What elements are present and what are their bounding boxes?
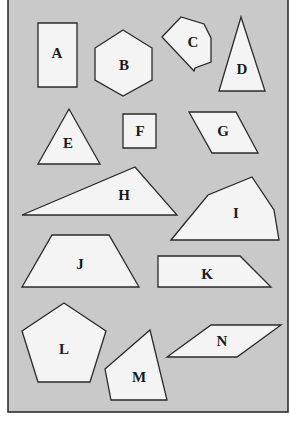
shape-label: H bbox=[118, 187, 130, 203]
shape-label: B bbox=[119, 57, 129, 73]
shape-label: L bbox=[59, 341, 69, 357]
shape-label: E bbox=[63, 135, 73, 151]
shape-label: M bbox=[132, 369, 146, 385]
shape-label: I bbox=[233, 205, 239, 221]
shape-f-square: F bbox=[123, 114, 156, 148]
shape-a-rectangle: A bbox=[38, 23, 77, 87]
shape-label: C bbox=[188, 34, 199, 50]
shape-label: D bbox=[237, 61, 248, 77]
shape-label: K bbox=[201, 266, 213, 282]
shapes-diagram: ABCDEFGHIJKLMN bbox=[0, 0, 290, 421]
shape-label: A bbox=[52, 45, 63, 61]
shape-label: N bbox=[217, 333, 228, 349]
shape-label: G bbox=[217, 123, 229, 139]
shape-label: J bbox=[76, 256, 84, 272]
shapes-layer: ABCDEFGHIJKLMN bbox=[22, 17, 281, 400]
shape-label: F bbox=[135, 123, 144, 139]
